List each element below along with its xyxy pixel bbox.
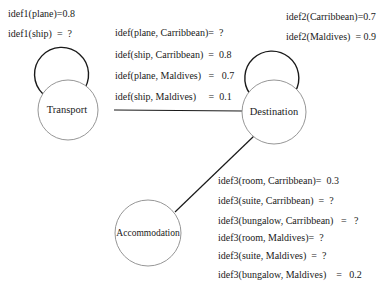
idef2-carribbean: idef2(Carribbean)=0.7	[286, 11, 376, 23]
idef3-bungalow-carribbean: idef3(bungalow, Carribbean) = ?	[218, 215, 359, 227]
idef-ship-maldives: idef(ship, Maldives) = 0.1	[115, 91, 232, 103]
idef3-bungalow-maldives: idef3(bungalow, Maldives) = 0.2	[218, 269, 362, 281]
destination-node-label: Destination	[250, 106, 298, 118]
idef1-plane: idef1(plane)=0.8	[8, 8, 75, 20]
idef3-suite-carribbean: idef3(suite, Carribbean) = ?	[218, 195, 334, 207]
idef3-suite-maldives: idef3(suite, Maldives) = ?	[218, 250, 326, 262]
transport-node-label: Transport	[47, 104, 87, 116]
idef-ship-carribbean: idef(ship, Carribbean) = 0.8	[115, 49, 231, 61]
accommodation-node-label: Accommodation	[116, 227, 179, 239]
idef3-room-maldives: idef3(room, Maldives)= ?	[218, 232, 324, 244]
idef-plane-maldives: idef(plane, Maldives) = 0.7	[115, 70, 234, 82]
idef-plane-carribbean: idef(plane, Carribbean)= ?	[115, 27, 223, 39]
idef1-ship: idef1(ship) = ?	[8, 28, 72, 40]
edge-transport-destination	[114, 110, 243, 111]
idef2-maldives: idef2(Maldives) = 0.9	[286, 31, 376, 43]
idef3-room-carribbean: idef3(room, Carribbean)= 0.3	[218, 175, 339, 187]
